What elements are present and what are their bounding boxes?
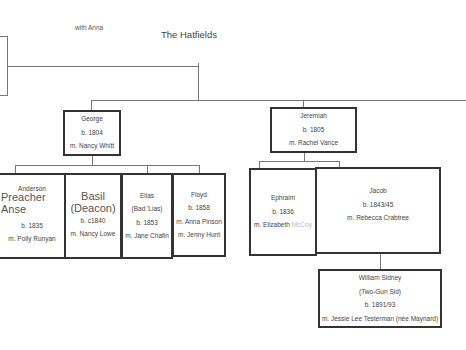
person-married: m. Nancy Lowe [71, 231, 116, 238]
person-married: m. Anna Pinson [176, 219, 222, 226]
person-married: m. Jane Chafin [125, 233, 169, 240]
person-born: b. 1804 [81, 130, 103, 137]
person-born: b. 1853 [136, 220, 158, 227]
person-jacob[interactable]: Jacob b. 1843/45 m. Rebecca Crabtree [315, 167, 441, 254]
person-born: b. c1840 [81, 218, 106, 225]
william-drop [380, 254, 381, 270]
person-name: Jacob [369, 188, 386, 195]
person-anderson[interactable]: Anderson Preacher Anse b. 1835 m. Polly … [0, 173, 66, 259]
person-name: George [81, 116, 103, 123]
person-ephraim[interactable]: Ephraim b. 1836 m. Elizabeth McCoy [249, 168, 317, 256]
person-name: William Sidney [359, 275, 402, 282]
person-name: Ephraim [271, 195, 295, 202]
person-married-2: m. Jenny Hunt [178, 232, 220, 239]
person-jeremiah[interactable]: Jeremiah b. 1805 m. Rachel Vance [270, 107, 357, 153]
person-born: b. 1843/45 [363, 202, 394, 209]
person-born: b. 1858 [188, 205, 210, 212]
jeremiah-children-drop [304, 153, 305, 161]
person-born: b. 1835 [21, 223, 43, 230]
left-bracket-top [0, 36, 8, 37]
person-william-sidney[interactable]: William Sidney (Two-Gun Sid) b. 1891/93 … [318, 269, 442, 328]
george-children-connector [15, 165, 200, 166]
person-george[interactable]: George b. 1804 m. Nancy Whitt [63, 110, 121, 156]
person-born: b. 1805 [303, 127, 325, 134]
root-drop [198, 63, 199, 100]
diagram-title: The Hatfields [161, 29, 217, 40]
person-married: m. Jessie Lee Testerman (née Maynard) [322, 316, 438, 323]
married-prefix: m. Elizabeth [254, 221, 290, 228]
person-born: b. 1836 [272, 209, 294, 216]
person-born: b. 1891/93 [365, 302, 396, 309]
person-nickname: (Bad 'Lias) [132, 206, 163, 213]
person-floyd[interactable]: Floyd b. 1858 m. Anna Pinson m. Jenny Hu… [172, 173, 226, 257]
married-surname-faded: McCoy [292, 221, 312, 228]
person-basil[interactable]: Basil (Deacon) b. c1840 m. Nancy Lowe [64, 173, 122, 259]
person-married: m. Nancy Whitt [70, 143, 114, 150]
george-children-drop [92, 156, 93, 165]
person-elias[interactable]: Elias (Bad 'Lias) b. 1853 m. Jane Chafin [121, 173, 173, 259]
root-connector [8, 66, 199, 67]
person-married: m. Polly Runyan [8, 236, 55, 243]
jeremiah-drop [303, 100, 304, 107]
person-married: m. Rebecca Crabtree [347, 215, 409, 222]
person-name: Basil [81, 191, 105, 203]
left-bracket-bottom [0, 95, 8, 96]
person-nickname: (Two-Gun Sid) [359, 289, 401, 296]
person-name: Floyd [191, 192, 207, 199]
person-married: m. Rachel Vance [289, 140, 338, 147]
person-name: Jeremiah [300, 113, 327, 120]
person-nickname: (Deacon) [70, 203, 115, 215]
note-with-anna: with Anna [75, 24, 103, 31]
person-name: Elias [140, 193, 154, 200]
jeremiah-children-connector [259, 161, 339, 162]
person-nickname: Preacher Anse [1, 192, 41, 215]
gen1-connector [91, 100, 466, 101]
person-married: m. Elizabeth McCoy [254, 222, 312, 229]
